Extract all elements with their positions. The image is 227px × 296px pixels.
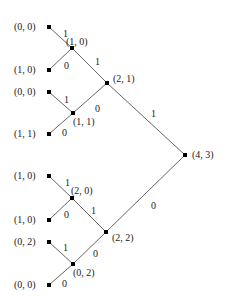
tree-edges xyxy=(0,0,227,296)
tree-node-dot xyxy=(47,25,51,29)
tree-node-dot xyxy=(105,81,109,85)
edge-label: 0 xyxy=(62,279,67,289)
tree-edge xyxy=(49,264,73,285)
tree-edge xyxy=(49,113,73,134)
node-label: (4, 3) xyxy=(192,150,214,160)
node-label: (2, 2) xyxy=(112,233,134,243)
edge-label: 1 xyxy=(151,109,156,119)
tree-edge xyxy=(49,242,73,264)
edge-label: 0 xyxy=(151,201,156,211)
node-label: (0, 0) xyxy=(14,87,36,97)
node-label: (0, 0) xyxy=(14,280,36,290)
node-label: (0, 2) xyxy=(14,237,36,247)
edge-label: 1 xyxy=(95,57,100,67)
tree-edge xyxy=(72,48,107,83)
tree-node-dot xyxy=(47,240,51,244)
node-label: (1, 0) xyxy=(14,215,36,225)
edge-label: 0 xyxy=(95,104,100,114)
tree-node-dot xyxy=(47,174,51,178)
tree-node-dot xyxy=(183,153,187,157)
tree-node-dot xyxy=(47,283,51,287)
tree-node-dot xyxy=(47,218,51,222)
edge-label: 0 xyxy=(93,249,98,259)
node-label: (1, 1) xyxy=(14,129,36,139)
node-label: (2, 0) xyxy=(71,186,93,196)
edge-label: 0 xyxy=(64,61,69,71)
tree-node-dot xyxy=(47,90,51,94)
edge-label: 1 xyxy=(65,178,70,188)
tree-node-dot xyxy=(47,68,51,72)
tree-edge xyxy=(73,83,107,113)
edge-label: 1 xyxy=(91,206,96,216)
tree-node-dot xyxy=(47,132,51,136)
tree-edge xyxy=(107,83,185,155)
node-label: (1, 0) xyxy=(14,171,36,181)
binary-tree-diagram: 10101010101010(4, 3)(2, 1)(2, 2)(1, 0)(1… xyxy=(0,0,227,296)
tree-edge xyxy=(73,232,106,264)
tree-edge xyxy=(106,155,185,232)
node-label: (0, 2) xyxy=(73,268,95,278)
tree-node-dot xyxy=(104,230,108,234)
tree-node-dot xyxy=(71,262,75,266)
node-label: (1, 0) xyxy=(14,65,36,75)
edge-label: 1 xyxy=(64,95,69,105)
edge-label: 0 xyxy=(62,128,67,138)
edge-label: 0 xyxy=(64,210,69,220)
node-label: (0, 0) xyxy=(14,22,36,32)
tree-edge xyxy=(72,198,106,232)
tree-edge xyxy=(49,92,73,113)
tree-node-dot xyxy=(70,196,74,200)
node-label: (1, 0) xyxy=(66,37,88,47)
node-label: (1, 1) xyxy=(73,117,95,127)
edge-label: 1 xyxy=(63,243,68,253)
node-label: (2, 1) xyxy=(113,74,135,84)
tree-node-dot xyxy=(71,111,75,115)
